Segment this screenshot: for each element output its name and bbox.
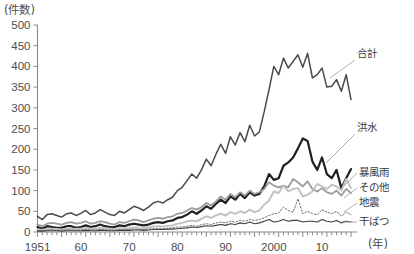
x-axis-unit-label: (年) xyxy=(368,237,388,251)
y-tick-label: 0 xyxy=(24,226,30,238)
y-tick-label: 100 xyxy=(11,185,30,197)
y-axis-unit-label: (件数) xyxy=(4,3,35,17)
series-lines xyxy=(38,53,352,231)
series-line xyxy=(38,53,352,219)
y-tick-label: 50 xyxy=(18,205,31,217)
legend-label-その他: その他 xyxy=(359,181,390,193)
x-tick-label: 1951 xyxy=(25,241,51,253)
x-tick-label: 70 xyxy=(123,241,136,253)
x-tick-label: 10 xyxy=(316,241,329,253)
legend-leader-line xyxy=(344,203,357,212)
y-tick-label: 200 xyxy=(11,143,30,155)
y-tick-label: 450 xyxy=(11,40,30,52)
y-tick-label: 300 xyxy=(11,102,30,114)
y-tick-label: 400 xyxy=(11,60,30,72)
chart-container: (件数) 050100150200250300350400450500 1951… xyxy=(0,0,414,254)
legend-label-干ばつ: 干ばつ xyxy=(359,215,389,227)
legend-label-地震: 地震 xyxy=(359,196,380,208)
x-tick-label: 2000 xyxy=(261,241,287,253)
legend-label-暴風雨: 暴風雨 xyxy=(359,166,389,178)
legend-label-合計: 合計 xyxy=(357,47,378,59)
legend-label-洪水: 洪水 xyxy=(357,121,378,133)
x-tick-label: 60 xyxy=(75,241,88,253)
y-tick-label: 350 xyxy=(11,81,30,93)
x-tick-label: 80 xyxy=(171,241,184,253)
y-tick-label: 150 xyxy=(11,164,30,176)
y-axis: 050100150200250300350400450500 xyxy=(11,19,37,238)
y-tick-label: 500 xyxy=(11,19,30,31)
x-axis: 195160708090200010 xyxy=(25,232,357,253)
series-line xyxy=(38,179,352,226)
x-tick-label: 90 xyxy=(219,241,232,253)
y-tick-label: 250 xyxy=(11,123,30,135)
series-line xyxy=(38,138,352,228)
chart-legend: 合計洪水暴風雨その他地震干ばつ xyxy=(326,47,390,227)
disaster-count-line-chart: (件数) 050100150200250300350400450500 1951… xyxy=(0,0,414,254)
legend-leader-line xyxy=(330,60,355,78)
legend-leader-line xyxy=(326,134,355,163)
